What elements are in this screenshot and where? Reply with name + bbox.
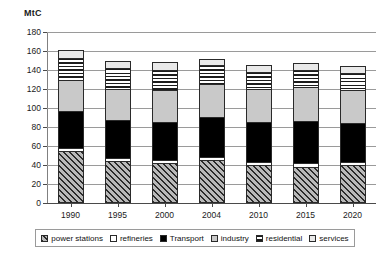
x-tick-mark-2020 <box>353 203 354 207</box>
bar-segment-power-stations-2015[interactable] <box>293 167 319 203</box>
legend-swatch-transport-icon <box>160 235 167 242</box>
bar-segment-industry-2004[interactable] <box>199 84 225 116</box>
bar-2010[interactable] <box>246 32 272 203</box>
legend-item-services[interactable]: services <box>309 234 348 243</box>
bar-segment-services-2010[interactable] <box>246 65 272 72</box>
bar-segment-transport-2020[interactable] <box>340 123 366 162</box>
y-tick-label-40: 40 <box>1 160 41 170</box>
x-tick-mark-1995 <box>118 203 119 207</box>
x-tick-mark-1990 <box>71 203 72 207</box>
y-tick-label-60: 60 <box>1 141 41 151</box>
y-tick-label-160: 160 <box>1 46 41 56</box>
x-tick-label-2015: 2015 <box>284 210 328 220</box>
bar-2020[interactable] <box>340 32 366 203</box>
bar-2004[interactable] <box>199 32 225 203</box>
bar-series-group <box>47 32 376 203</box>
y-tick-label-0: 0 <box>1 198 41 208</box>
legend-label: power stations <box>51 234 103 243</box>
bar-segment-power-stations-1990[interactable] <box>58 151 84 203</box>
legend-label: residential <box>266 234 302 243</box>
bar-segment-transport-2015[interactable] <box>293 121 319 163</box>
bar-segment-industry-2000[interactable] <box>152 90 178 122</box>
bar-segment-refineries-1995[interactable] <box>105 158 131 161</box>
bar-segment-residential-2015[interactable] <box>293 70 319 87</box>
x-tick-mark-2010 <box>259 203 260 207</box>
bar-segment-transport-1990[interactable] <box>58 111 84 148</box>
bar-segment-refineries-1990[interactable] <box>58 148 84 151</box>
legend-item-residential[interactable]: residential <box>256 234 302 243</box>
bar-segment-transport-1995[interactable] <box>105 120 131 158</box>
legend-label: services <box>319 234 348 243</box>
bar-segment-refineries-2010[interactable] <box>246 162 272 165</box>
bar-segment-services-2020[interactable] <box>340 66 366 73</box>
y-tick-label-140: 140 <box>1 65 41 75</box>
bar-segment-residential-1990[interactable] <box>58 58 84 80</box>
legend-swatch-industry-icon <box>211 235 218 242</box>
legend-item-power-stations[interactable]: power stations <box>41 234 103 243</box>
bar-segment-power-stations-2000[interactable] <box>152 163 178 203</box>
legend-label: refineries <box>120 234 153 243</box>
legend-label: industry <box>221 234 249 243</box>
bar-segment-residential-2010[interactable] <box>246 72 272 89</box>
y-tick-label-80: 80 <box>1 122 41 132</box>
legend-swatch-residential-icon <box>256 235 263 242</box>
bar-segment-industry-2020[interactable] <box>340 90 366 123</box>
bar-segment-refineries-2004[interactable] <box>199 157 225 160</box>
x-tick-label-2000: 2000 <box>143 210 187 220</box>
y-tick-label-20: 20 <box>1 179 41 189</box>
legend-item-industry[interactable]: industry <box>211 234 249 243</box>
bar-segment-transport-2004[interactable] <box>199 117 225 158</box>
bar-segment-power-stations-2020[interactable] <box>340 165 366 203</box>
y-tick-mark-0 <box>43 203 47 204</box>
bar-segment-industry-1990[interactable] <box>58 80 84 111</box>
bar-segment-services-1990[interactable] <box>58 50 84 58</box>
plot-area: 020406080100120140160180 199019952000200… <box>47 32 376 203</box>
x-tick-label-2004: 2004 <box>190 210 234 220</box>
legend-label: Transport <box>170 234 204 243</box>
bar-segment-refineries-2020[interactable] <box>340 162 366 165</box>
bar-segment-industry-2010[interactable] <box>246 89 272 122</box>
bar-segment-services-2015[interactable] <box>293 63 319 70</box>
chart-legend: power stationsrefineriesTransportindustr… <box>35 229 355 247</box>
bar-segment-residential-1995[interactable] <box>105 68 131 89</box>
bar-1990[interactable] <box>58 32 84 203</box>
x-tick-mark-2015 <box>306 203 307 207</box>
bar-1995[interactable] <box>105 32 131 203</box>
bar-segment-power-stations-2004[interactable] <box>199 160 225 203</box>
y-tick-label-120: 120 <box>1 84 41 94</box>
bar-segment-services-2004[interactable] <box>199 59 225 66</box>
legend-swatch-refineries-icon <box>110 235 117 242</box>
chart-container: MtC 020406080100120140160180 19901995200… <box>0 0 388 257</box>
bar-segment-refineries-2000[interactable] <box>152 160 178 163</box>
bar-segment-industry-1995[interactable] <box>105 89 131 120</box>
x-tick-label-1995: 1995 <box>96 210 140 220</box>
x-tick-label-1990: 1990 <box>49 210 93 220</box>
bar-segment-refineries-2015[interactable] <box>293 163 319 167</box>
bar-segment-power-stations-2010[interactable] <box>246 165 272 203</box>
y-tick-label-180: 180 <box>1 27 41 37</box>
bar-segment-services-2000[interactable] <box>152 62 178 70</box>
bar-segment-transport-2010[interactable] <box>246 122 272 162</box>
x-tick-mark-2004 <box>212 203 213 207</box>
bar-segment-residential-2020[interactable] <box>340 73 366 90</box>
bar-2000[interactable] <box>152 32 178 203</box>
legend-item-transport[interactable]: Transport <box>160 234 204 243</box>
bar-segment-industry-2015[interactable] <box>293 87 319 121</box>
x-tick-mark-2000 <box>165 203 166 207</box>
legend-swatch-services-icon <box>309 235 316 242</box>
x-tick-label-2010: 2010 <box>237 210 281 220</box>
legend-item-refineries[interactable]: refineries <box>110 234 153 243</box>
legend-swatch-power-stations-icon <box>41 235 48 242</box>
bar-segment-transport-2000[interactable] <box>152 122 178 160</box>
x-tick-label-2020: 2020 <box>331 210 375 220</box>
bar-segment-power-stations-1995[interactable] <box>105 161 131 203</box>
bar-segment-residential-2004[interactable] <box>199 65 225 84</box>
bar-segment-residential-2000[interactable] <box>152 70 178 90</box>
bar-2015[interactable] <box>293 32 319 203</box>
y-axis-title: MtC <box>24 8 42 18</box>
bar-segment-services-1995[interactable] <box>105 61 131 68</box>
y-tick-label-100: 100 <box>1 103 41 113</box>
